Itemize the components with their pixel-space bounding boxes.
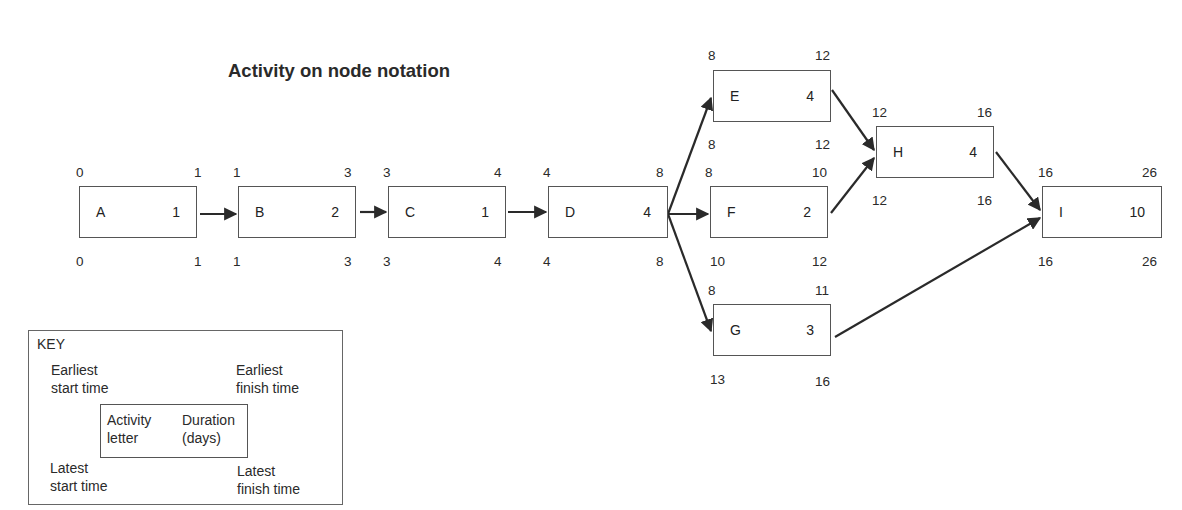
node-b-latest-start: 1 (233, 254, 241, 269)
key-activity-letter: Activity letter (107, 411, 151, 447)
key-earliest-start: Earliest start time (51, 361, 109, 397)
activity-duration: 2 (331, 204, 339, 220)
key-sample-node: Activity letter Duration (days) (100, 404, 248, 458)
node-d-earliest-start: 4 (543, 165, 551, 180)
legend-key: KEY Earliest start time Earliest finish … (28, 330, 343, 505)
node-h: H 4 (876, 126, 994, 178)
node-b-earliest-start: 1 (233, 165, 241, 180)
node-h-earliest-finish: 16 (977, 105, 992, 120)
node-g-latest-finish: 16 (815, 374, 830, 389)
node-a: A 1 (79, 186, 197, 238)
node-i: I 10 (1042, 186, 1162, 238)
node-g-earliest-finish: 11 (815, 283, 829, 298)
node-b-latest-finish: 3 (344, 254, 352, 269)
key-earliest-finish: Earliest finish time (236, 361, 299, 397)
activity-duration: 4 (643, 204, 651, 220)
node-h-earliest-start: 12 (872, 105, 887, 120)
arrow-d-g (668, 214, 711, 331)
node-a-latest-finish: 1 (194, 254, 202, 269)
activity-letter: I (1059, 204, 1063, 220)
node-a-earliest-finish: 1 (194, 165, 202, 180)
node-c-latest-start: 3 (383, 254, 391, 269)
node-b: B 2 (238, 186, 356, 238)
activity-duration: 3 (806, 322, 814, 338)
key-latest-start: Latest start time (50, 459, 108, 495)
node-f-earliest-finish: 10 (812, 165, 827, 180)
node-i-earliest-finish: 26 (1142, 165, 1157, 180)
node-i-earliest-start: 16 (1038, 165, 1053, 180)
node-i-latest-start: 16 (1038, 254, 1053, 269)
node-g: G 3 (713, 304, 831, 356)
activity-letter: C (405, 204, 415, 220)
activity-letter: A (96, 204, 105, 220)
activity-letter: H (893, 144, 903, 160)
node-h-latest-finish: 16 (977, 193, 992, 208)
node-b-earliest-finish: 3 (344, 165, 352, 180)
node-e: E 4 (713, 70, 831, 122)
node-f-earliest-start: 8 (705, 165, 713, 180)
activity-duration: 4 (806, 88, 814, 104)
node-c: C 1 (388, 186, 506, 238)
activity-letter: E (730, 88, 739, 104)
key-duration: Duration (days) (182, 411, 235, 447)
arrow-h-i (996, 152, 1040, 210)
activity-duration: 1 (172, 204, 180, 220)
node-c-earliest-start: 3 (383, 165, 391, 180)
node-c-earliest-finish: 4 (494, 165, 502, 180)
node-i-latest-finish: 26 (1142, 254, 1157, 269)
node-a-latest-start: 0 (76, 254, 84, 269)
node-d-earliest-finish: 8 (656, 165, 664, 180)
arrow-e-h (832, 90, 874, 150)
node-f-latest-start: 10 (710, 254, 725, 269)
node-d: D 4 (548, 186, 668, 238)
node-a-earliest-start: 0 (76, 165, 84, 180)
node-g-latest-start: 13 (710, 372, 725, 387)
activity-letter: G (730, 322, 741, 338)
activity-letter: D (565, 204, 575, 220)
node-c-latest-finish: 4 (494, 254, 502, 269)
node-f: F 2 (710, 186, 828, 238)
node-f-latest-finish: 12 (812, 254, 827, 269)
node-e-latest-finish: 12 (815, 137, 830, 152)
activity-letter: F (727, 204, 736, 220)
node-d-latest-finish: 8 (656, 254, 664, 269)
activity-duration: 4 (969, 144, 977, 160)
node-h-latest-start: 12 (872, 193, 887, 208)
node-g-earliest-start: 8 (708, 283, 716, 298)
arrow-f-h (831, 158, 874, 213)
key-heading: KEY (37, 335, 65, 353)
node-e-earliest-start: 8 (708, 48, 716, 63)
activity-duration: 1 (481, 204, 489, 220)
key-latest-finish: Latest finish time (237, 462, 300, 498)
node-e-earliest-finish: 12 (815, 48, 830, 63)
node-d-latest-start: 4 (543, 254, 551, 269)
arrow-d-e (668, 98, 711, 214)
activity-duration: 2 (803, 204, 811, 220)
activity-letter: B (255, 204, 264, 220)
activity-duration: 10 (1129, 204, 1145, 220)
node-e-latest-start: 8 (708, 137, 716, 152)
arrow-g-i (835, 218, 1040, 337)
